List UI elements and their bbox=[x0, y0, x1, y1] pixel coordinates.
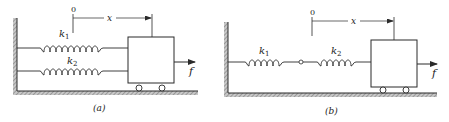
wheel-left-b bbox=[380, 87, 386, 93]
spring-label-k1-a: k1 bbox=[59, 28, 70, 41]
origin-label-b: 0 bbox=[310, 8, 315, 17]
wall-a bbox=[13, 18, 17, 95]
spring-label-k2-a: k2 bbox=[67, 55, 78, 68]
wheel-right-b bbox=[403, 87, 409, 93]
spring-k1-b bbox=[228, 60, 299, 66]
spring-k1-a bbox=[17, 46, 128, 52]
spring-label-k1-b: k1 bbox=[259, 45, 270, 58]
spring-label-k2-b: k2 bbox=[331, 45, 342, 58]
spring-k2-a bbox=[17, 69, 128, 75]
mass-block-b bbox=[371, 40, 417, 87]
floor-a bbox=[13, 91, 198, 95]
spring-mass-diagram: k1 k2 f 0 x (a) bbox=[0, 0, 449, 122]
force-label-b: f bbox=[431, 67, 438, 80]
mass-block-a bbox=[128, 37, 174, 83]
series-node-b bbox=[299, 60, 303, 64]
floor-b bbox=[224, 93, 437, 97]
displacement-label-b: x bbox=[351, 16, 356, 26]
caption-a: (a) bbox=[93, 103, 106, 113]
force-label-a: f bbox=[188, 65, 195, 78]
displacement-label-a: x bbox=[107, 13, 112, 23]
panel-a: k1 k2 f 0 x (a) bbox=[13, 5, 198, 113]
panel-b: k1 k2 f 0 x (b) bbox=[224, 8, 438, 116]
wall-b bbox=[224, 22, 228, 97]
origin-label-a: 0 bbox=[71, 5, 76, 14]
wheel-right-a bbox=[159, 85, 165, 91]
wheel-left-a bbox=[136, 85, 142, 91]
spring-k2-b bbox=[303, 60, 371, 66]
caption-b: (b) bbox=[325, 106, 338, 116]
